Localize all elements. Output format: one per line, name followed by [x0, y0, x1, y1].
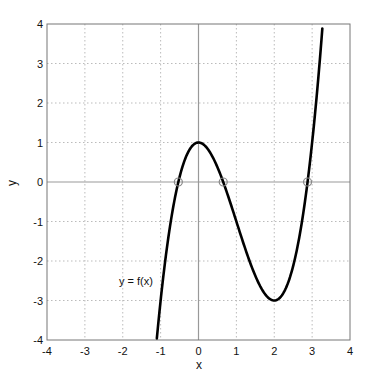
x-tick-label: 1	[233, 345, 239, 357]
zero-axis-lines	[47, 24, 350, 340]
y-tick-label: 1	[37, 137, 43, 149]
x-tick-label: -2	[118, 345, 128, 357]
x-tick-label: 4	[347, 345, 353, 357]
y-tick-label: -4	[33, 334, 43, 346]
curve-annotation: y = f(x)	[119, 275, 153, 287]
y-tick-label: -1	[33, 216, 43, 228]
x-tick-label: -1	[156, 345, 166, 357]
y-tick-label: 3	[37, 58, 43, 70]
y-tick-label: 2	[37, 97, 43, 109]
x-tick-label: 2	[271, 345, 277, 357]
y-axis-label: y	[5, 180, 19, 186]
y-tick-label: -3	[33, 295, 43, 307]
y-tick-label: 0	[37, 176, 43, 188]
y-tick-labels: -4-3-2-101234	[33, 18, 43, 346]
y-tick-label: 4	[37, 18, 43, 30]
x-tick-label: 3	[309, 345, 315, 357]
y-tick-label: -2	[33, 255, 43, 267]
x-axis-label: x	[196, 358, 202, 372]
x-tick-labels: -4-3-2-101234	[42, 345, 353, 357]
x-tick-label: -3	[80, 345, 90, 357]
x-tick-label: 0	[195, 345, 201, 357]
cubic-function-chart: -4-3-2-101234 -4-3-2-101234 y = f(x) x y	[0, 0, 371, 386]
x-tick-label: -4	[42, 345, 52, 357]
